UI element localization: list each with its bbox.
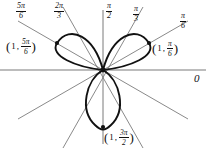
fraction-denominator: 3: [133, 15, 139, 23]
fraction-numerator: π: [133, 5, 139, 13]
radius-value: 1: [109, 133, 114, 142]
comma-separator: ,: [115, 133, 117, 142]
fraction-pi-over-3: π 3: [133, 5, 139, 24]
fraction-numerator: π: [106, 2, 112, 10]
paren-close: ): [174, 42, 178, 55]
paren-open: (: [6, 40, 10, 53]
angle-tick-5pi-over-6: 5π 6: [16, 2, 26, 21]
fraction-pi-over-6: π 6: [180, 12, 186, 31]
radius-value: 1: [157, 44, 162, 53]
fraction-pi-over-6: π 6: [167, 40, 173, 58]
paren-close: ): [32, 40, 36, 53]
comma-separator: ,: [163, 44, 165, 53]
paren-open: (: [104, 131, 108, 144]
fraction-numerator: 5π: [16, 2, 26, 10]
axis-label-zero: 0: [194, 73, 200, 84]
point-label-3pi-over-2: ( 1 , 3π 2 ): [104, 129, 134, 147]
fraction-5pi-over-6: 5π 6: [16, 2, 26, 21]
fraction-5pi-over-6: 5π 6: [21, 38, 31, 56]
origin-point: [101, 68, 106, 73]
paren-open: (: [152, 42, 156, 55]
fraction-denominator: 6: [167, 50, 173, 58]
fraction-denominator: 6: [180, 22, 186, 30]
paren-close: ): [130, 131, 134, 144]
tip-marker-5pi-over-6: [55, 41, 59, 45]
fraction-numerator: π: [167, 40, 173, 48]
polar-plot-svg: [0, 0, 206, 148]
fraction-numerator: 5π: [21, 38, 31, 46]
point-label-5pi-over-6: ( 1 , 5π 6 ): [6, 38, 36, 56]
angle-tick-pi-over-3: π 3: [133, 5, 139, 24]
fraction-denominator: 6: [16, 12, 26, 20]
angle-tick-pi-over-2: π 2: [106, 2, 112, 21]
fraction-2pi-over-3: 2π 3: [54, 2, 64, 21]
fraction-denominator: 2: [106, 12, 112, 20]
fraction-numerator: 3π: [119, 129, 129, 137]
angle-tick-pi-over-6: π 6: [180, 12, 186, 31]
tip-marker-pi-over-6: [147, 41, 151, 45]
radius-value: 1: [11, 42, 16, 51]
angle-tick-2pi-over-3: 2π 3: [54, 2, 64, 21]
fraction-numerator: π: [180, 12, 186, 20]
fraction-3pi-over-2: 3π 2: [119, 129, 129, 147]
fraction-pi-over-2: π 2: [106, 2, 112, 21]
point-label-pi-over-6: ( 1 , π 6 ): [152, 40, 178, 58]
comma-separator: ,: [17, 42, 19, 51]
fraction-denominator: 6: [21, 48, 31, 56]
fraction-denominator: 2: [119, 139, 129, 147]
fraction-denominator: 3: [54, 12, 64, 20]
polar-rose-figure: 5π 6 2π 3 π 2 π 3 π 6 (: [0, 0, 206, 148]
fraction-numerator: 2π: [54, 2, 64, 10]
